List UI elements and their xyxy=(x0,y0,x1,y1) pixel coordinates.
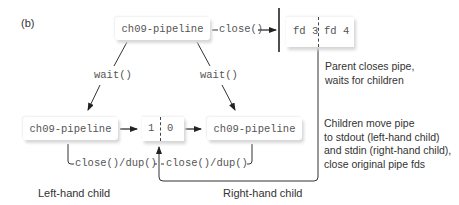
left-child-caption: Left-hand child xyxy=(38,187,110,199)
right-child-caption: Right-hand child xyxy=(223,187,303,199)
parent-process-box: ch09-pipeline xyxy=(115,17,210,40)
children-note-line: close original pipe fds xyxy=(324,158,451,172)
child-pipe-fds-box: 1 0 xyxy=(142,117,184,141)
fd-3-label: fd 3 xyxy=(293,25,318,37)
fd-1-label: 1 xyxy=(148,122,154,134)
parent-pipe-fds-box: fd 3 fd 4 xyxy=(286,17,354,47)
fd-0-label: 0 xyxy=(167,122,173,134)
right-child-process-label: ch09-pipeline xyxy=(214,123,296,135)
parent-note: Parent closes pipe, waits for children xyxy=(325,60,414,87)
left-child-action-label: close()/dup() xyxy=(75,157,157,169)
figure-label: (b) xyxy=(21,17,34,29)
parent-note-line: waits for children xyxy=(325,74,414,88)
wait-label-right: wait() xyxy=(200,69,238,81)
wait-label-left: wait() xyxy=(94,69,132,81)
left-child-process-box: ch09-pipeline xyxy=(23,117,118,140)
left-child-process-label: ch09-pipeline xyxy=(30,123,112,135)
children-note: Children move pipe to stdout (left-hand … xyxy=(324,117,451,171)
parent-note-line: Parent closes pipe, xyxy=(325,60,414,74)
fd-4-label: fd 4 xyxy=(324,25,349,37)
parent-process-label: ch09-pipeline xyxy=(122,23,204,35)
children-note-line: to stdout (left-hand child) xyxy=(324,131,451,145)
pipe-divider xyxy=(160,117,161,141)
right-child-action-label: close()/dup() xyxy=(166,157,248,169)
children-note-line: Children move pipe xyxy=(324,117,451,131)
right-child-process-box: ch09-pipeline xyxy=(207,117,302,140)
parent-close-label: close() xyxy=(219,23,263,35)
pipe-divider xyxy=(318,17,319,47)
children-note-line: and stdin (right-hand child), xyxy=(324,144,451,158)
